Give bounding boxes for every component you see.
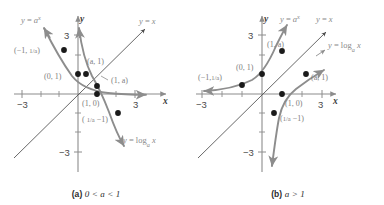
identity-label: y = x	[315, 14, 333, 24]
caption-a-text: 0 < a < 1	[85, 189, 121, 199]
x-tick-label-neg3: −3	[17, 99, 28, 110]
point-label-inv-a-neg1: ( 1/a −1)	[82, 115, 108, 124]
y-tick-label-3: 3	[248, 30, 253, 41]
caption-a-marker: (a)	[72, 189, 83, 199]
logarithm-label: y = loga x	[122, 135, 156, 148]
x-tick-label-3: 3	[133, 99, 138, 110]
leader-1-a	[101, 76, 108, 80]
point-neg1-inv-a	[61, 47, 67, 53]
x-axis-label: x	[162, 96, 168, 106]
point-label-inv-a-neg1: (1/a −1)	[280, 114, 304, 123]
panel-a: x y −3 3 3 −3 y = ax y = x y = loga x (−…	[0, 0, 192, 205]
leader-log-b	[316, 50, 325, 56]
point-label-1-a: (1, a)	[267, 40, 284, 49]
exponential-label: y = ax	[279, 13, 300, 25]
panel-a-plot: x y −3 3 3 −3 y = ax y = x y = loga x (−…	[0, 0, 192, 205]
point-label-0-1: (0, 1)	[236, 63, 254, 72]
logarithm-curve-arrow-start	[79, 28, 80, 38]
point-a-1	[303, 71, 309, 77]
y-tick-label-neg3: −3	[59, 147, 70, 158]
point-label-1-0: (1, 0)	[285, 99, 303, 108]
y-tick-label-3: 3	[64, 30, 69, 41]
point-0-1	[75, 71, 81, 77]
panel-b-plot: x y −3 3 3 −3 y = ax y = x y = loga x (−…	[192, 0, 384, 205]
point-label-neg1-inv-a: (−1,1/a)	[198, 73, 222, 82]
point-label-1-a: (1, a)	[111, 76, 128, 85]
figure-container: x y −3 3 3 −3 y = ax y = x y = loga x (−…	[0, 0, 384, 205]
y-tick-label-neg3: −3	[243, 147, 254, 158]
point-1-a	[94, 83, 100, 89]
point-label-0-1: (0, 1)	[44, 72, 62, 81]
axes-group-b	[196, 16, 336, 172]
y-axis-label: y	[263, 14, 269, 24]
point-0-1	[259, 71, 265, 77]
exponential-curve	[204, 25, 287, 91]
exponential-curve-arrow-start	[44, 28, 50, 38]
point-label-a-1: (a, 1)	[87, 57, 104, 66]
x-tick-label-neg3: −3	[196, 99, 207, 110]
caption-b-text: a > 1	[285, 189, 305, 199]
caption-b-marker: (b)	[271, 189, 282, 199]
point-a-1	[83, 71, 89, 77]
point-1-0	[94, 91, 100, 97]
logarithm-curve-arrow-start	[272, 158, 273, 166]
identity-label: y = x	[138, 16, 156, 26]
point-1-0	[279, 91, 285, 97]
logarithm-label: y = loga x	[327, 40, 361, 53]
panel-b: x y −3 3 3 −3 y = ax y = x y = loga x (−…	[192, 0, 384, 205]
x-tick-label-3: 3	[318, 99, 323, 110]
exponential-label: y = ax	[20, 14, 41, 26]
y-axis-label: y	[79, 14, 85, 24]
point-label-1-0: (1, 0)	[82, 99, 100, 108]
point-inv-a-neg1	[115, 110, 121, 116]
point-label-neg1-inv-a: (−1, 1/a)	[14, 46, 40, 55]
caption-a: (a) 0 < a < 1	[0, 189, 192, 199]
point-inv-a-neg1	[271, 110, 277, 116]
x-axis-label: x	[332, 96, 338, 106]
point-label-a-1: (a, 1)	[311, 73, 328, 82]
caption-b: (b) a > 1	[192, 189, 384, 199]
point-neg1-inv-a	[239, 82, 245, 88]
